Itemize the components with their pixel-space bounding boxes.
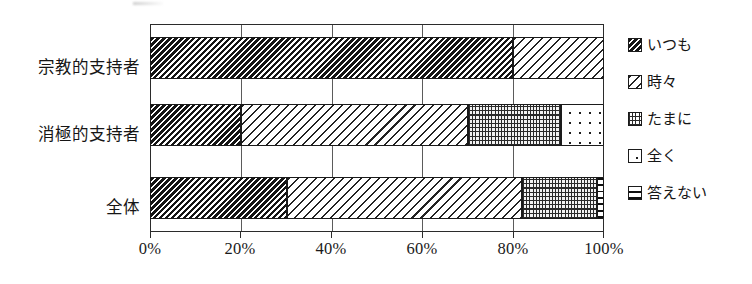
bar-segment-occasional bbox=[468, 105, 561, 145]
legend-label-sometimes: 時々 bbox=[647, 75, 677, 90]
x-axis-label-100: 100% bbox=[569, 239, 639, 259]
x-axis-label-20: 20% bbox=[205, 239, 275, 259]
bar-segment-occasional bbox=[522, 178, 597, 218]
bar-segment-no-answer bbox=[597, 178, 604, 218]
legend-item-always: いつも bbox=[628, 36, 692, 54]
y-axis-label-passive-supporter: 消極的支持者 bbox=[38, 121, 140, 145]
legend-swatch-always-icon bbox=[628, 38, 642, 52]
x-axis-tick-80 bbox=[513, 232, 514, 238]
x-axis-tick-60 bbox=[422, 232, 423, 238]
x-axis-label-0: 0% bbox=[115, 239, 185, 259]
legend-item-sometimes: 時々 bbox=[628, 73, 677, 91]
bar-segment-always bbox=[150, 178, 286, 218]
legend-item-occasional: たまに bbox=[628, 110, 692, 128]
chart-figure: 宗教的支持者 消極的支持者 全体 0% 20% 40% 60% 80% 100%… bbox=[0, 0, 752, 284]
bar-segment-always bbox=[150, 38, 513, 78]
legend-swatch-no-answer-icon bbox=[628, 186, 642, 200]
y-axis-label-total: 全体 bbox=[106, 194, 140, 218]
plot-area bbox=[150, 24, 604, 232]
bar-segment-sometimes bbox=[241, 105, 468, 145]
y-axis-label-religious-supporter: 宗教的支持者 bbox=[38, 54, 140, 78]
legend-label-always: いつも bbox=[647, 38, 692, 53]
bar-row-total bbox=[150, 177, 603, 219]
x-axis-label-60: 60% bbox=[387, 239, 457, 259]
x-axis-tick-40 bbox=[331, 232, 332, 238]
legend-label-occasional: たまに bbox=[647, 112, 692, 127]
legend-swatch-occasional-icon bbox=[628, 112, 642, 126]
bar-segment-sometimes bbox=[287, 178, 523, 218]
legend-swatch-sometimes-icon bbox=[628, 75, 642, 89]
legend-item-never: 全く bbox=[628, 147, 677, 165]
legend-item-no-answer: 答えない bbox=[628, 184, 707, 202]
x-axis-label-40: 40% bbox=[296, 239, 366, 259]
x-axis-tick-20 bbox=[240, 232, 241, 238]
x-axis-tick-0 bbox=[150, 232, 151, 238]
scan-artifact bbox=[133, 2, 163, 5]
bar-segment-sometimes bbox=[513, 38, 604, 78]
bar-row-passive-supporter bbox=[150, 104, 603, 146]
bar-row-religious-supporter bbox=[150, 37, 603, 79]
legend-swatch-never-icon bbox=[628, 149, 642, 163]
x-axis-tick-100 bbox=[603, 232, 604, 238]
legend-label-never: 全く bbox=[647, 149, 677, 164]
legend-label-no-answer: 答えない bbox=[647, 186, 707, 201]
bar-segment-always bbox=[150, 105, 241, 145]
bar-segment-never bbox=[561, 105, 604, 145]
x-axis-label-80: 80% bbox=[478, 239, 548, 259]
